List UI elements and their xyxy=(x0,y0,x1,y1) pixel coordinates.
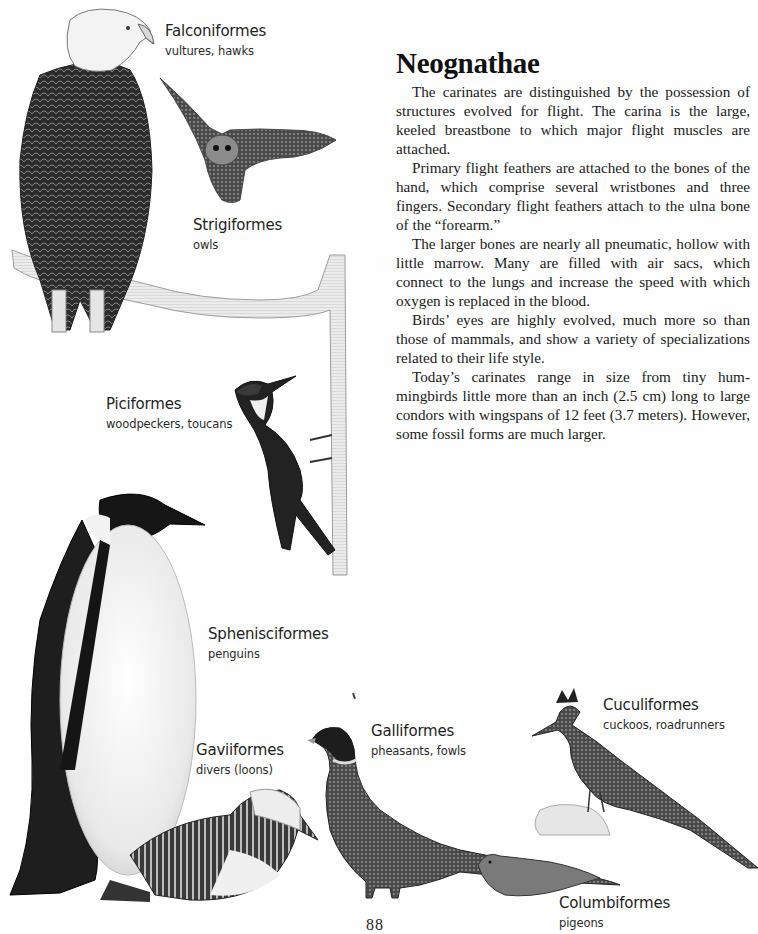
article: Neognathae The carinates are distinguish… xyxy=(396,46,750,443)
article-paragraph: Birds’ eyes are highly evolved, much mor… xyxy=(396,310,750,367)
order-description: vultures, hawks xyxy=(165,46,266,58)
book-page: Falconiformes vultures, hawks Strigiform… xyxy=(0,0,758,934)
order-description: cuckoos, roadrunners xyxy=(603,720,725,732)
order-name: Sphenisciformes xyxy=(208,627,329,642)
order-description: penguins xyxy=(208,649,329,661)
order-description: woodpeckers, toucans xyxy=(106,419,232,431)
order-description: pigeons xyxy=(559,918,670,930)
order-label-falconiformes: Falconiformes vultures, hawks xyxy=(165,24,266,58)
order-name: Galliformes xyxy=(371,724,466,739)
woodpecker-illustration xyxy=(235,376,335,555)
page-number: 88 xyxy=(366,916,384,934)
order-name: Columbiformes xyxy=(559,896,670,911)
article-paragraph: Primary flight feathers are attached to … xyxy=(396,158,750,234)
order-description: pheasants, fowls xyxy=(371,746,466,758)
order-label-gaviiformes: Gaviiformes divers (loons) xyxy=(196,743,284,777)
order-label-cuculiformes: Cuculiformes cuckoos, roadrunners xyxy=(603,698,725,732)
order-label-piciformes: Piciformes woodpeckers, toucans xyxy=(106,397,232,431)
order-label-galliformes: Galliformes pheasants, fowls xyxy=(371,724,466,758)
article-paragraph: The larger bones are nearly all pneumati… xyxy=(396,234,750,310)
order-label-strigiformes: Strigiformes owls xyxy=(193,218,282,252)
order-name: Falconiformes xyxy=(165,24,266,39)
owl-illustration xyxy=(160,78,336,203)
order-name: Strigiformes xyxy=(193,218,282,233)
order-label-columbiformes: Columbiformes pigeons xyxy=(559,896,670,930)
order-description: owls xyxy=(193,240,282,252)
order-name: Piciformes xyxy=(106,397,232,412)
pigeon-illustration xyxy=(478,854,600,896)
order-name: Gaviiformes xyxy=(196,743,284,758)
article-title: Neognathae xyxy=(396,46,750,80)
article-paragraph: Today’s carinates range in size from tin… xyxy=(396,367,750,443)
order-name: Cuculiformes xyxy=(603,698,725,713)
order-description: divers (loons) xyxy=(196,765,284,777)
order-label-sphenisciformes: Sphenisciformes penguins xyxy=(208,627,329,661)
article-paragraph: The carinates are distinguished by the p… xyxy=(396,82,750,158)
